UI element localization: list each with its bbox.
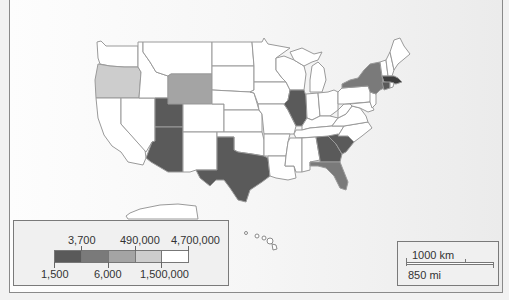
state-alaska[interactable] <box>126 204 198 219</box>
legend-swatch-3 <box>108 250 136 263</box>
state-florida[interactable] <box>310 162 348 190</box>
scale-tick <box>465 259 466 263</box>
scale-bar: 1000 km 850 mi <box>397 241 499 286</box>
legend-label-bottom-2: 6,000 <box>94 268 122 280</box>
legend: 3,700 490,000 4,700,000 1,500 6,000 1,50… <box>13 220 229 286</box>
scale-tick <box>406 258 407 266</box>
legend-label-top-3: 4,700,000 <box>171 234 220 246</box>
legend-tick <box>81 246 82 251</box>
state-new-mexico[interactable] <box>183 132 217 172</box>
state-pennsylvania[interactable] <box>338 86 372 104</box>
state-south-dakota[interactable] <box>212 66 254 92</box>
legend-tick <box>135 246 136 251</box>
state-ohio[interactable] <box>318 90 338 116</box>
state-hawaii[interactable] <box>245 232 278 251</box>
legend-label-bottom-1: 1,500 <box>41 268 69 280</box>
legend-label-top-2: 490,000 <box>120 234 160 246</box>
legend-label-bottom-3: 1,500,000 <box>140 268 189 280</box>
scale-mi-label: 850 mi <box>408 269 441 281</box>
legend-swatch-2 <box>81 250 109 263</box>
state-new-jersey[interactable] <box>370 92 376 108</box>
scale-line <box>406 262 494 265</box>
legend-swatch-5 <box>161 250 189 263</box>
scale-tick <box>493 262 494 268</box>
legend-swatch-1 <box>54 250 82 263</box>
state-rhode-island[interactable] <box>390 82 394 88</box>
state-maine[interactable] <box>390 38 410 70</box>
legend-swatch-4 <box>135 250 162 263</box>
state-north-dakota[interactable] <box>212 42 254 66</box>
legend-label-top-1: 3,700 <box>68 234 96 246</box>
state-wyoming[interactable] <box>168 74 212 104</box>
state-oregon[interactable] <box>95 64 141 98</box>
state-kansas[interactable] <box>224 110 262 132</box>
state-connecticut[interactable] <box>382 82 390 90</box>
state-washington[interactable] <box>97 41 138 67</box>
legend-tick <box>188 246 189 251</box>
state-colorado[interactable] <box>183 104 224 132</box>
scale-km-label: 1000 km <box>412 249 454 261</box>
